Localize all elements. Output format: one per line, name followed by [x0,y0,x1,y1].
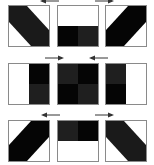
tile-r3c3 [105,120,147,162]
diagonal-band-down-pattern [9,6,49,46]
arrow-right-icon [44,55,64,61]
tile-r2c1 [8,63,50,105]
checker-pattern [58,64,98,104]
tile-r3c1 [8,120,50,162]
arrow-left-icon [89,55,109,61]
tile-r1c1 [8,5,50,47]
half-split-pattern [58,121,98,161]
arrow-right-icon [94,0,114,4]
diagonal-band-down-pattern [106,121,146,161]
diagonal-band-up-pattern [106,6,146,46]
tile-r2c2 [57,63,99,105]
tile-r1c2 [57,5,99,47]
diagonal-band-up-pattern [9,121,49,161]
arrow-left-icon [41,112,61,118]
half-split-pattern [9,64,49,104]
tile-r2c3 [105,63,147,105]
arrow-right-icon [94,112,114,118]
tile-r1c3 [105,5,147,47]
tile-r3c2 [57,120,99,162]
arrow-left-icon [40,0,60,4]
half-split-pattern [58,6,98,46]
half-split-pattern [106,64,146,104]
